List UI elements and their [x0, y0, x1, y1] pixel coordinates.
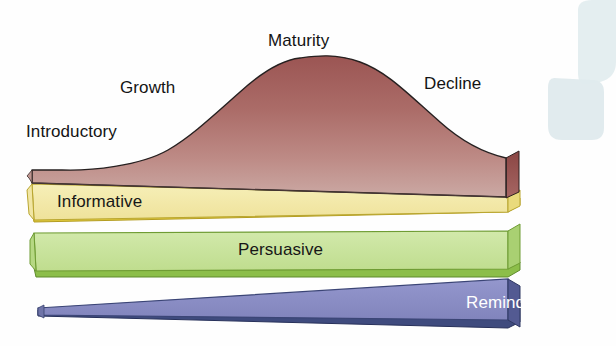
stage-label-decline: Decline [424, 74, 481, 94]
diagram-canvas: Introductory Growth Maturity Decline Inf… [0, 0, 616, 346]
stage-label-introductory: Introductory [26, 122, 117, 142]
band-reminder [38, 279, 520, 328]
stage-label-maturity: Maturity [268, 31, 329, 51]
band-label-reminder: Reminder [466, 293, 541, 313]
band-label-informative: Informative [57, 192, 142, 212]
band-label-persuasive: Persuasive [238, 240, 323, 260]
stage-label-growth: Growth [120, 78, 175, 98]
scan-artifact [548, 0, 616, 140]
